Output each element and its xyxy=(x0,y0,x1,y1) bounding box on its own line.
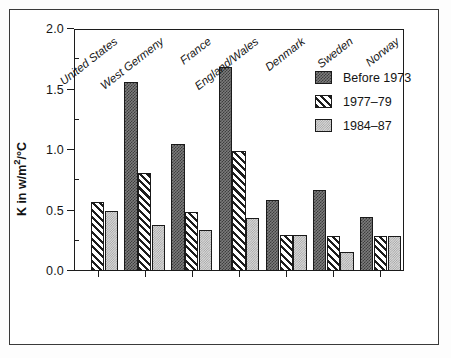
y-axis-tick xyxy=(67,270,74,271)
legend-label: Before 1973 xyxy=(343,71,411,85)
y-axis-tick xyxy=(67,210,74,211)
x-axis-tick xyxy=(145,271,146,277)
x-axis-tick xyxy=(380,271,381,277)
bar[interactable] xyxy=(360,217,373,271)
x-axis-tick xyxy=(192,271,193,277)
y-axis-tick-label: 0.0 xyxy=(46,264,64,278)
y-axis-title-pre: K in w/m xyxy=(15,165,29,216)
y-axis-tick-label: 1.5 xyxy=(46,83,64,97)
x-axis-tick xyxy=(239,271,240,277)
chart-legend: Before 19731977–791984–87 xyxy=(315,67,411,139)
figure-canvas: K in w/m2/°C 0.00.51.01.52.0 United Stat… xyxy=(0,0,451,358)
bar[interactable] xyxy=(374,236,387,271)
y-axis-tick xyxy=(67,28,74,29)
legend-swatch xyxy=(315,71,332,84)
legend-label: 1977–79 xyxy=(343,95,392,109)
legend-swatch xyxy=(315,95,332,108)
legend-label: 1984–87 xyxy=(343,119,392,133)
legend-item[interactable]: 1984–87 xyxy=(315,115,411,136)
x-axis-tick xyxy=(98,271,99,277)
y-axis-tick-label: 2.0 xyxy=(46,22,64,36)
legend-item[interactable]: Before 1973 xyxy=(315,67,411,88)
y-axis-title-post: /°C xyxy=(15,142,29,160)
x-axis-tick xyxy=(333,271,334,277)
y-axis-tick-label: 0.5 xyxy=(46,204,64,218)
plot-area: 0.00.51.01.52.0 United StatesWest Germen… xyxy=(74,29,404,271)
y-axis-title: K in w/m2/°C xyxy=(11,142,28,216)
x-axis-tick xyxy=(286,271,287,277)
y-axis-title-exponent: 2 xyxy=(11,159,22,164)
bar[interactable] xyxy=(388,236,401,271)
legend-item[interactable]: 1977–79 xyxy=(315,91,411,112)
y-axis-tick xyxy=(67,89,74,90)
legend-swatch xyxy=(315,119,332,132)
y-axis-tick xyxy=(67,149,74,150)
y-axis-tick-label: 1.0 xyxy=(46,143,64,157)
